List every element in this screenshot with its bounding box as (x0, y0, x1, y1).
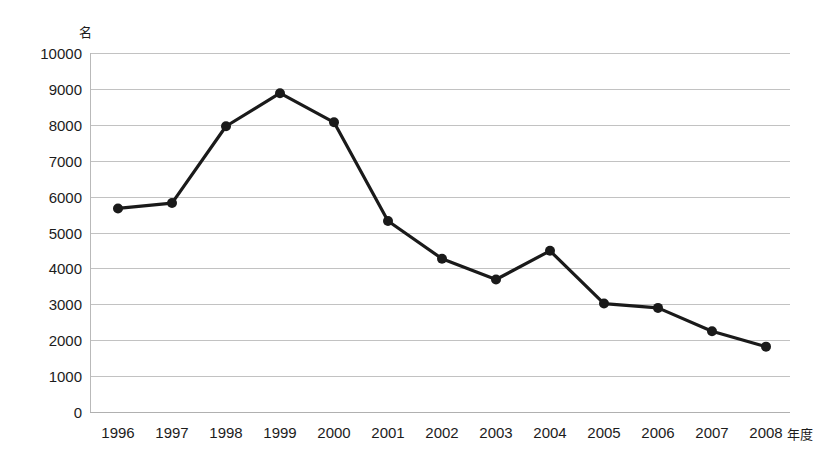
x-axis-tick-label: 2001 (358, 424, 418, 442)
x-axis-tick-label: 2000 (304, 424, 364, 442)
data-point-marker: 2004: 4490 (545, 246, 555, 256)
y-axis-tick-label: 7000 (20, 154, 82, 169)
data-point-marker: 1996: 5670 (113, 203, 123, 213)
y-axis-tick-label: 4000 (20, 261, 82, 276)
x-axis-unit-label: 年度 (787, 427, 813, 443)
x-axis-tick-label: 1998 (196, 424, 256, 442)
y-axis-tick-label: 6000 (20, 190, 82, 205)
series-line (118, 93, 766, 346)
y-axis-tick-label: 3000 (20, 297, 82, 312)
data-point-marker: 2000: 8070 (329, 117, 339, 127)
x-axis-tick-label: 2002 (412, 424, 472, 442)
data-point-marker: 2001: 5320 (383, 216, 393, 226)
x-axis-tick-label: 2003 (466, 424, 526, 442)
x-axis-tick-label: 1996 (88, 424, 148, 442)
data-point-marker: 2007: 2250 (707, 326, 717, 336)
data-point-marker: 1997: 5820 (167, 198, 177, 208)
line-chart: 名 10000900080007000600050004000300020001… (0, 0, 837, 470)
data-point-marker: 2008: 1820 (761, 342, 771, 352)
data-point-marker: 1999: 8880 (275, 88, 285, 98)
data-point-marker: 2003: 3690 (491, 275, 501, 285)
data-point-marker: 2002: 4270 (437, 254, 447, 264)
x-axis-tick-label: 1997 (142, 424, 202, 442)
data-point-marker: 2006: 2900 (653, 303, 663, 313)
y-axis-tick-label: 2000 (20, 333, 82, 348)
x-axis-tick-label: 2004 (520, 424, 580, 442)
y-axis-tick-label: 10000 (20, 46, 82, 61)
x-axis-tick-label: 1999 (250, 424, 310, 442)
y-axis-tick-label: 0 (20, 405, 82, 420)
plot-area: 1996: 56701997: 58201998: 79601999: 8880… (90, 53, 790, 412)
x-axis-tick-label: 2005 (574, 424, 634, 442)
data-point-marker: 2005: 3020 (599, 299, 609, 309)
data-series-line: 1996: 56701997: 58201998: 79601999: 8880… (90, 53, 790, 412)
y-axis-tick-label: 8000 (20, 118, 82, 133)
data-point-marker: 1998: 7960 (221, 121, 231, 131)
y-axis-tick-label: 9000 (20, 82, 82, 97)
y-axis-tick-label: 1000 (20, 369, 82, 384)
gridline (90, 412, 790, 413)
x-axis-tick-label: 2007 (682, 424, 742, 442)
x-axis-tick-label: 2006 (628, 424, 688, 442)
x-axis-tick-labels: 1996199719981999200020012002200320042005… (90, 424, 790, 448)
y-axis-tick-label: 5000 (20, 226, 82, 241)
y-axis-tick-labels: 1000090008000700060005000400030002000100… (18, 53, 82, 412)
y-axis-unit-label: 名 (58, 26, 92, 40)
